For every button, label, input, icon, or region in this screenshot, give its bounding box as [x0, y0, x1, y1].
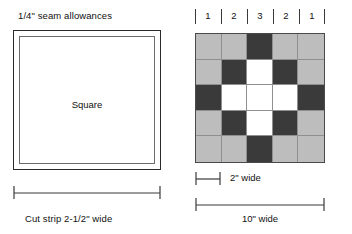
column-number-2: 2	[223, 10, 245, 21]
cut-square-seam-line: Square	[19, 36, 155, 164]
column-tick	[324, 9, 325, 24]
quilt-cell-r5-c4	[273, 136, 299, 162]
quilt-cell-r3-c4	[273, 85, 299, 111]
quilt-cell-r4-c5	[298, 111, 324, 137]
cut-strip-caption: Cut strip 2-1/2" wide	[25, 213, 112, 224]
quilt-cell-r1-c5	[298, 34, 324, 60]
quilt-cell-r4-c1	[196, 111, 222, 137]
cut-strip-diagram: 1/4" seam allowances Square Cut strip 2-…	[0, 0, 180, 234]
quilt-cell-r2-c3	[247, 60, 273, 86]
quilt-block-diagram: 1 2 3 2 1 2" wide 10" wide	[180, 0, 352, 234]
quilt-cell-r5-c5	[298, 136, 324, 162]
quilt-cell-r4-c4	[273, 111, 299, 137]
block-width-label: 10" wide	[195, 213, 325, 224]
quilt-cell-r3-c1	[196, 85, 222, 111]
column-number-1: 1	[197, 10, 219, 21]
block-width-dimension-line	[195, 198, 325, 212]
quilt-block-grid	[195, 33, 325, 163]
quilt-cell-r5-c3	[247, 136, 273, 162]
quilt-cell-r5-c2	[222, 136, 248, 162]
quilt-cell-r5-c1	[196, 136, 222, 162]
quilt-cell-r2-c2	[222, 60, 248, 86]
quilt-cell-r1-c2	[222, 34, 248, 60]
quilt-cell-r1-c3	[247, 34, 273, 60]
cell-width-label: 2" wide	[230, 172, 261, 183]
quilt-cell-r3-c3	[247, 85, 273, 111]
cell-width-dimension-line	[195, 172, 221, 186]
square-label: Square	[20, 99, 154, 110]
quilt-cell-r3-c2	[222, 85, 248, 111]
quilt-cell-r4-c2	[222, 111, 248, 137]
quilt-cell-r3-c5	[298, 85, 324, 111]
quilt-cell-r2-c4	[273, 60, 299, 86]
quilt-cell-r1-c4	[273, 34, 299, 60]
column-number-ruler: 1 2 3 2 1	[195, 8, 325, 28]
column-number-3: 3	[249, 10, 271, 21]
cut-square-outer-edge: Square	[13, 30, 161, 170]
column-number-5: 1	[301, 10, 323, 21]
cut-strip-dimension-line	[13, 186, 161, 200]
quilt-cell-r2-c1	[196, 60, 222, 86]
quilt-cell-r2-c5	[298, 60, 324, 86]
quilt-cell-r4-c3	[247, 111, 273, 137]
column-number-4: 2	[275, 10, 297, 21]
seam-allowance-caption: 1/4" seam allowances	[18, 10, 112, 21]
quilt-cell-r1-c1	[196, 34, 222, 60]
